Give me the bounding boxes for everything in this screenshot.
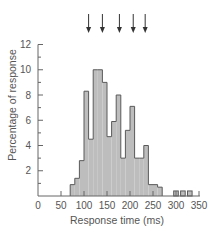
histogram-bar: [112, 122, 117, 196]
histogram-bar: [144, 146, 149, 197]
y-axis-label: Percentage of response: [6, 49, 18, 161]
histogram-bar: [98, 70, 103, 196]
y-tick-label: 12: [20, 39, 32, 50]
histogram-bar: [135, 158, 140, 196]
histogram-bar: [70, 185, 75, 196]
y-tick-label: 2: [25, 165, 31, 176]
arrow-head: [117, 27, 122, 33]
peak-arrows: [86, 14, 148, 33]
histogram-bar: [116, 95, 121, 196]
histogram-bar: [89, 139, 94, 196]
arrow-head: [143, 27, 148, 33]
histogram-bar: [181, 191, 186, 196]
histogram-bar: [84, 91, 89, 196]
histogram-chart: 24681012050100150200250300350 Response t…: [0, 0, 211, 235]
x-tick-label: 0: [35, 200, 41, 211]
y-tick-label: 10: [20, 64, 32, 75]
histogram-bar: [188, 191, 193, 196]
x-tick-label: 200: [122, 200, 139, 211]
arrow-head: [100, 27, 105, 33]
y-tick-label: 8: [25, 90, 31, 101]
x-tick-label: 100: [76, 200, 93, 211]
histogram-bar: [153, 185, 158, 196]
histogram-bars: [70, 70, 192, 196]
histogram-bar: [158, 187, 163, 196]
histogram-bar: [125, 130, 130, 196]
arrow-head: [86, 27, 91, 33]
x-tick-label: 300: [168, 200, 185, 211]
x-tick-label: 250: [145, 200, 162, 211]
x-tick-label: 350: [191, 200, 208, 211]
arrow-head: [131, 27, 136, 33]
histogram-bar: [102, 82, 107, 196]
histogram-bar: [75, 178, 80, 196]
histogram-bar: [139, 158, 144, 196]
histogram-bar: [130, 106, 135, 196]
histogram-bar: [107, 137, 112, 196]
y-tick-label: 6: [25, 115, 31, 126]
histogram-bar: [121, 158, 126, 196]
x-axis-label: Response time (ms): [70, 214, 164, 226]
histogram-bar: [93, 70, 98, 196]
x-tick-label: 50: [55, 200, 67, 211]
histogram-bar: [148, 185, 153, 196]
histogram-bar: [79, 161, 84, 196]
y-tick-label: 4: [25, 140, 31, 151]
x-tick-label: 150: [99, 200, 116, 211]
